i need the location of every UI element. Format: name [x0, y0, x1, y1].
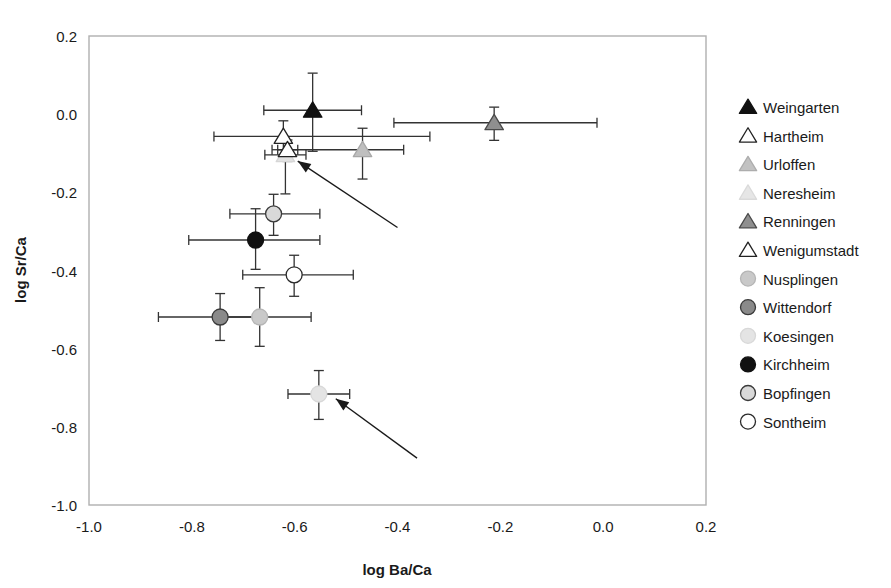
legend-label: Wittendorf — [763, 299, 832, 316]
legend-marker-koesingen — [741, 328, 756, 343]
y-tick-label: -0.4 — [51, 263, 77, 280]
legend-label: Hartheim — [763, 128, 824, 145]
x-tick-label: -0.8 — [179, 518, 205, 535]
legend-marker-wittendorf — [741, 300, 756, 315]
scatter-plot-figure: -1.0-0.8-0.6-0.4-0.20.00.2 0.20.0-0.2-0.… — [0, 0, 891, 588]
y-axis-title: log Sr/Ca — [12, 236, 29, 303]
x-tick-label: -0.6 — [282, 518, 308, 535]
data-point-kirchheim — [248, 232, 264, 248]
x-tick-label: -0.2 — [487, 518, 513, 535]
legend-label: Wenigumstadt — [763, 242, 859, 259]
x-axis-title: log Ba/Ca — [362, 561, 432, 578]
legend-label: Urloffen — [763, 156, 815, 173]
y-tick-label: 0.0 — [56, 106, 77, 123]
data-point-koesingen — [311, 386, 327, 402]
x-tick-label: -0.4 — [385, 518, 411, 535]
legend-marker-nusplingen — [741, 271, 756, 286]
figure-background — [0, 0, 891, 588]
data-point-sontheim — [286, 267, 302, 283]
legend-label: Kirchheim — [763, 356, 830, 373]
x-tick-label: -1.0 — [76, 518, 102, 535]
y-tick-label: -0.2 — [51, 184, 77, 201]
data-point-wittendorf — [212, 309, 228, 325]
legend-marker-sontheim — [741, 414, 756, 429]
y-tick-label: -0.8 — [51, 419, 77, 436]
data-point-nusplingen — [252, 309, 268, 325]
legend-label: Weingarten — [763, 99, 839, 116]
legend-label: Bopfingen — [763, 385, 831, 402]
x-tick-label: 0.0 — [593, 518, 614, 535]
y-tick-label: 0.2 — [56, 28, 77, 45]
y-tick-label: -1.0 — [51, 497, 77, 514]
legend-label: Nusplingen — [763, 271, 838, 288]
legend-label: Renningen — [763, 213, 836, 230]
legend-marker-bopfingen — [741, 386, 756, 401]
legend-label: Koesingen — [763, 328, 834, 345]
legend-marker-kirchheim — [741, 357, 756, 372]
legend-label: Sontheim — [763, 414, 826, 431]
data-point-bopfingen — [266, 206, 282, 222]
x-tick-label: 0.2 — [696, 518, 717, 535]
legend-label: Neresheim — [763, 185, 836, 202]
y-tick-label: -0.6 — [51, 341, 77, 358]
